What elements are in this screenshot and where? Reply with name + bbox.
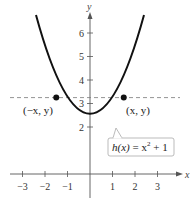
function-callout: h(x) = x2 + 1: [108, 128, 174, 156]
point-right-label: (x, y): [126, 104, 150, 117]
x-tick-label: −1: [62, 181, 73, 192]
y-tick-label: 3: [79, 98, 84, 109]
x-axis-arrow-icon: [176, 172, 183, 177]
x-axis: x −3 −2 −1 1 2 3: [10, 169, 190, 192]
y-tick-label: 2: [79, 122, 84, 133]
point-left-marker: [53, 95, 59, 101]
y-axis: y 2 3 4 5 6: [79, 1, 93, 198]
y-axis-label: y: [86, 1, 92, 12]
function-label: h(x) = x2 + 1: [112, 140, 168, 154]
x-tick-label: 3: [155, 181, 160, 192]
point-right-marker: [121, 95, 127, 101]
y-tick-label: 4: [79, 75, 84, 86]
y-tick-label: 5: [79, 51, 84, 62]
x-axis-label: x: [184, 169, 190, 180]
x-tick-label: 1: [110, 181, 115, 192]
y-tick-label: 6: [79, 28, 84, 39]
x-tick-label: −3: [17, 181, 28, 192]
parabola-chart: x −3 −2 −1 1 2 3 y 2 3 4 5 6: [0, 0, 190, 204]
y-axis-arrow-icon: [88, 12, 93, 19]
point-left-label: (−x, y): [23, 104, 53, 117]
x-tick-label: −2: [40, 181, 51, 192]
x-tick-label: 2: [133, 181, 138, 192]
